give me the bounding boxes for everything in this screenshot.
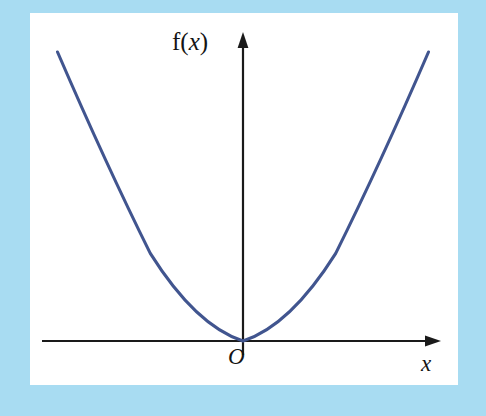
x-axis-label: x — [421, 352, 431, 375]
y-axis-label-fn: f( — [172, 28, 189, 55]
y-axis-label-variable: x — [189, 28, 200, 55]
plot-panel — [30, 13, 458, 385]
y-axis-label-paren: ) — [200, 28, 208, 55]
figure-container: f(x) O x — [0, 0, 486, 416]
y-axis-label: f(x) — [172, 29, 208, 54]
origin-label: O — [228, 345, 245, 368]
